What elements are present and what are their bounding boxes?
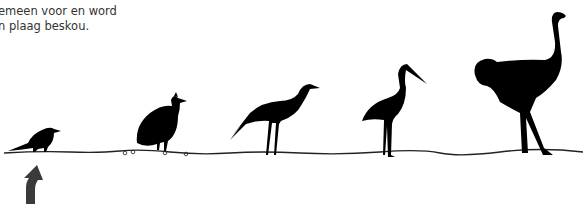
bird-illustration — [0, 0, 583, 208]
ostrich-icon — [474, 12, 566, 155]
crow-icon — [8, 128, 61, 152]
stork-icon — [362, 64, 427, 157]
guineafowl-icon — [137, 92, 187, 151]
up-arrow-icon — [24, 165, 43, 204]
plover-icon — [230, 84, 320, 155]
ground-line — [4, 150, 583, 156]
